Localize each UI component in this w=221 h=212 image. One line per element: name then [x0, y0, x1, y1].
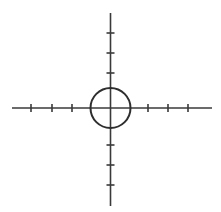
tick-marks-group [31, 33, 188, 185]
diagram-canvas [0, 0, 221, 212]
reticle-svg [0, 0, 221, 212]
axes-group [12, 13, 212, 206]
